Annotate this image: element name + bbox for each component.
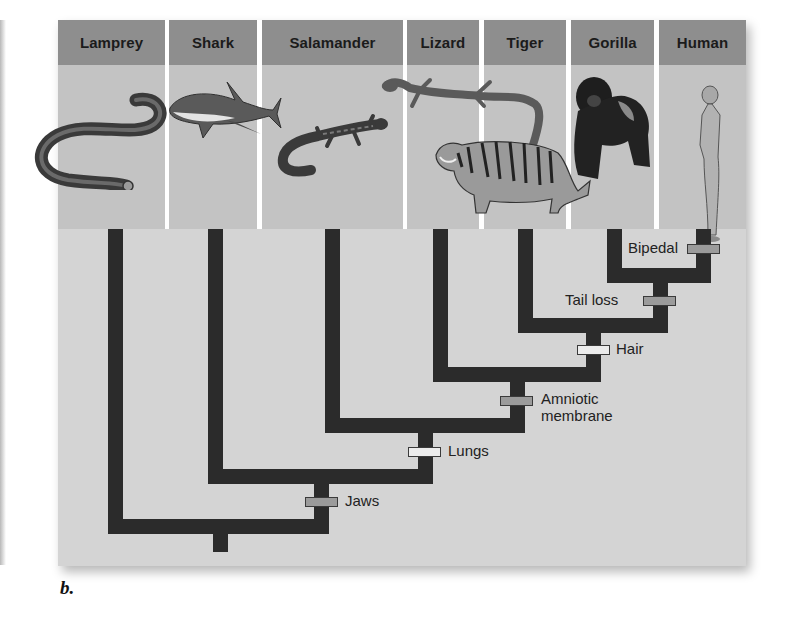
taxon-label-shark: Shark — [169, 20, 257, 65]
trait-label-tail-loss: Tail loss — [565, 291, 618, 308]
marker-lungs — [408, 447, 441, 457]
taxon-label-human: Human — [659, 20, 746, 65]
salamander-illustration — [273, 112, 388, 182]
taxon-label-gorilla: Gorilla — [571, 20, 654, 65]
gorilla-illustration — [568, 75, 658, 185]
lamprey-illustration — [28, 80, 178, 190]
marker-amniotic-membrane — [500, 396, 533, 406]
trait-label-lungs: Lungs — [448, 442, 489, 459]
cladogram-figure: Lamprey Shark Salamander Lizard Tiger Go… — [58, 20, 746, 566]
page-edge-shadow — [0, 20, 6, 565]
marker-tail-loss — [643, 296, 676, 306]
marker-hair — [577, 345, 610, 355]
root-stem — [213, 519, 228, 552]
marker-jaws — [305, 497, 338, 507]
trait-label-bipedal: Bipedal — [626, 239, 680, 256]
trait-label-hair: Hair — [616, 340, 644, 357]
human-illustration — [690, 85, 730, 245]
marker-bipedal — [687, 244, 720, 254]
taxon-label-lamprey: Lamprey — [58, 20, 165, 65]
trait-label-jaws: Jaws — [345, 492, 379, 509]
taxon-label-tiger: Tiger — [484, 20, 566, 65]
taxon-label-salamander: Salamander — [262, 20, 403, 65]
branch-shark — [208, 229, 223, 484]
taxon-label-lizard: Lizard — [407, 20, 479, 65]
branch-lizard — [433, 229, 448, 382]
figure-panel-label: b. — [60, 577, 74, 599]
trait-label-amniotic-membrane: Amniotic membrane — [541, 390, 613, 424]
shark-illustration — [165, 80, 285, 155]
trait-label-amniotic-line2: membrane — [541, 407, 613, 424]
branch-salamander — [325, 229, 340, 433]
trait-label-amniotic-line1: Amniotic — [541, 390, 613, 407]
branch-lamprey — [108, 229, 123, 534]
